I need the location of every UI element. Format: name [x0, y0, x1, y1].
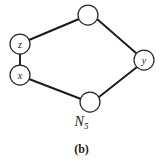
node-x-label: x: [17, 70, 23, 81]
graph-name-subscript: 5: [84, 121, 89, 131]
edge-group: [20, 19, 137, 99]
figure-container: z x y N5 (b): [0, 0, 163, 165]
node-bottom-circle[interactable]: [80, 92, 100, 112]
node-bottom[interactable]: [80, 92, 100, 112]
graph-diagram: z x y: [0, 0, 163, 165]
node-x[interactable]: x: [10, 65, 30, 85]
edge-z-top: [29, 19, 79, 40]
edge-bottom-x: [29, 79, 81, 99]
node-y[interactable]: y: [134, 50, 154, 70]
node-group: z x y: [10, 5, 154, 112]
graph-name-label: N5: [0, 114, 163, 131]
node-top[interactable]: [78, 5, 98, 25]
edge-top-y: [97, 19, 136, 53]
edge-y-bottom: [99, 67, 137, 97]
node-y-label: y: [141, 55, 147, 66]
panel-label: (b): [0, 142, 163, 157]
node-z-label: z: [17, 39, 22, 50]
node-z[interactable]: z: [10, 34, 30, 54]
graph-name-base: N: [75, 114, 84, 129]
node-top-circle[interactable]: [78, 5, 98, 25]
